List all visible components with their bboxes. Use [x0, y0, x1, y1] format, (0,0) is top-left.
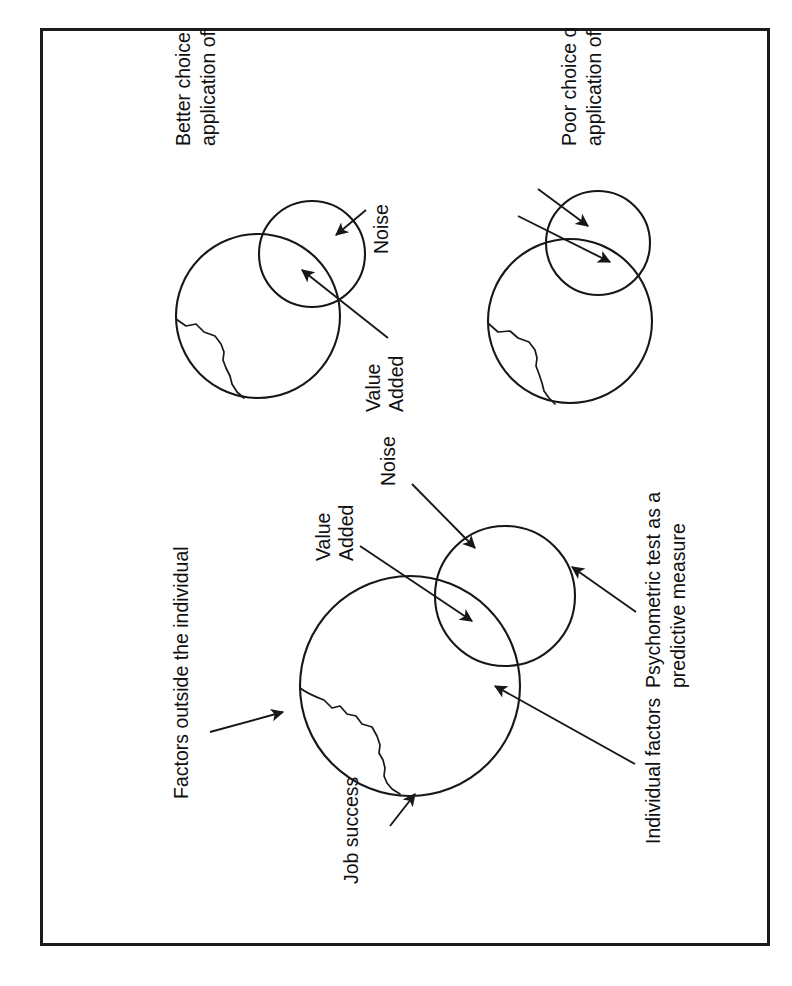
leader-noise-main — [412, 484, 475, 548]
circle-psychometric-test — [435, 526, 575, 666]
caption-poor-line1: Poor choice of test or poor — [558, 28, 580, 146]
circle-job-success-poor — [488, 239, 652, 403]
leader-value-added-better — [302, 270, 388, 338]
panel-poor-choice: Poor choice of test or poor application … — [488, 28, 652, 404]
circle-job-success — [300, 576, 520, 796]
internal-boundary-line-better — [176, 319, 244, 398]
caption-better-line1: Better choice of test or better — [172, 28, 194, 146]
label-psychometric-line1: Psychometric test as a — [642, 492, 664, 688]
leader-factors-outside — [210, 712, 283, 732]
leader-individual-factors — [495, 686, 635, 764]
rotated-figure-wrapper: Job success Factors outside the individu… — [40, 28, 770, 946]
venn-diagram-svg: Job success Factors outside the individu… — [40, 28, 770, 946]
leader-value-added-main — [360, 546, 472, 621]
panel-better-choice: Value Added Noise Better choice of test … — [172, 28, 407, 412]
label-value-main-line2: Added — [335, 505, 357, 561]
label-noise-better: Noise — [370, 204, 392, 254]
label-value-better-line1: Value — [362, 364, 384, 412]
caption-poor-line2: application of appropriate test — [583, 28, 605, 146]
caption-better-line2: application of same test — [197, 28, 219, 146]
diagram-canvas: Job success Factors outside the individu… — [40, 28, 770, 946]
leader-job-success — [390, 794, 415, 826]
figure-page: Job success Factors outside the individu… — [0, 0, 792, 986]
label-factors-outside: Factors outside the individual — [170, 546, 192, 799]
leader-psychometric — [572, 567, 636, 612]
label-value-better-line2: Added — [385, 356, 407, 412]
label-noise-main: Noise — [377, 436, 399, 486]
circle-job-success-better — [176, 234, 340, 398]
label-value-main-line1: Value — [312, 513, 334, 561]
leader-noise-better — [336, 210, 366, 235]
leader-value-added-poor — [518, 216, 610, 262]
internal-boundary-line-poor — [489, 324, 555, 404]
label-individual-factors: Individual factors — [642, 697, 664, 844]
label-psychometric-line2: predictive measure — [667, 523, 689, 688]
label-job-success: Job success — [340, 776, 362, 884]
panel-main: Job success Factors outside the individu… — [170, 436, 689, 884]
